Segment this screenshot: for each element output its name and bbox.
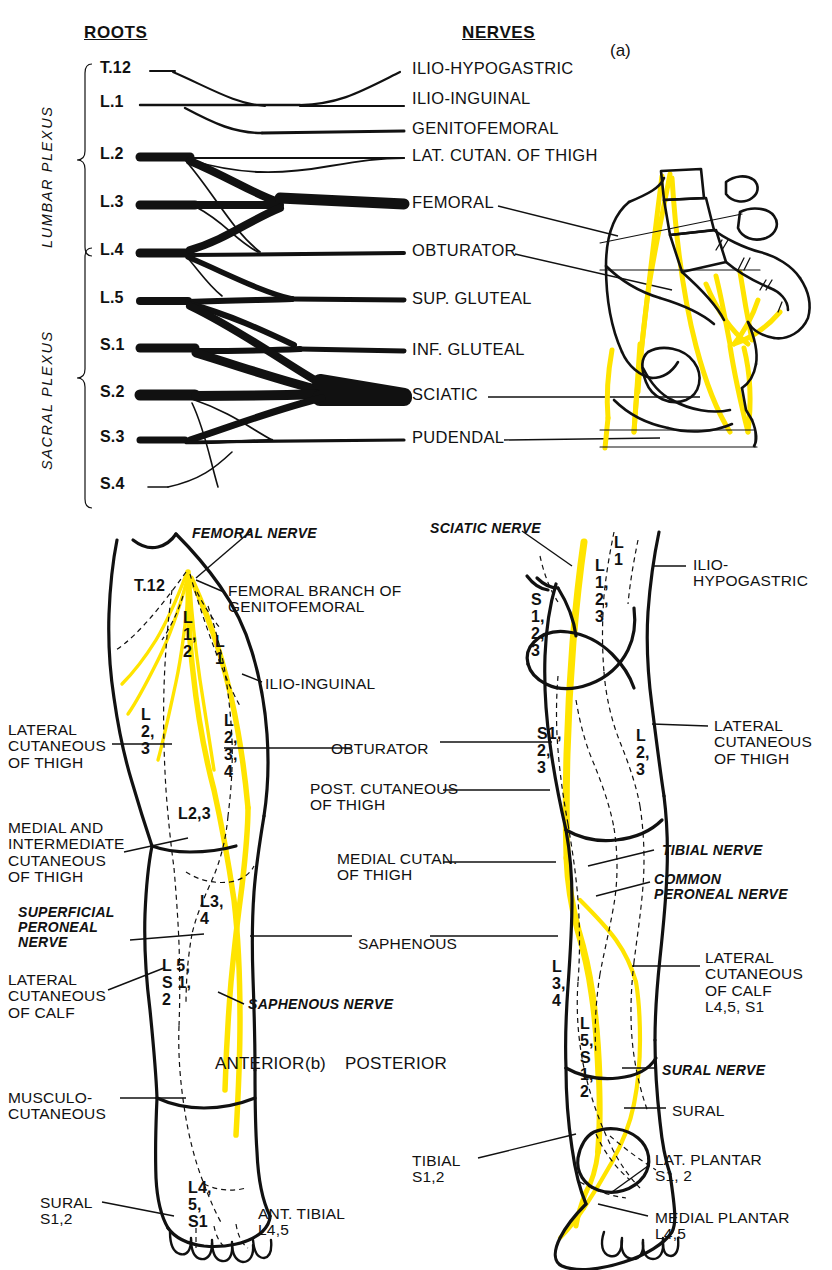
posterior-caption: POSTERIOR (345, 1055, 447, 1073)
root-label-s1: S.1 (100, 337, 125, 354)
anterior-segment-2: L 1 (215, 634, 225, 668)
nerve-label-inf-gluteal: INF. GLUTEAL (412, 341, 525, 358)
figure-root: .k{stroke:#111;fill:none;} .thin{stroke-… (0, 0, 832, 1270)
anterior-segment-5: L2,3 (178, 806, 211, 823)
anterior-leader-lines (102, 530, 352, 1216)
anterior-label-left-1: MEDIAL AND INTERMEDIATE CUTANEOUS OF THI… (8, 820, 125, 886)
posterior-segment-6: L 5, S 1, 2 (580, 1016, 594, 1101)
posterior-label-center-4: SAPHENOUS (358, 936, 457, 952)
root-label-s2: S.2 (100, 384, 125, 401)
anterior-segment-6: L3, 4 (200, 894, 224, 928)
posterior-label-right-8: MEDIAL PLANTAR L4,5 (655, 1210, 790, 1243)
pelvis-illustration (600, 169, 810, 448)
anterior-label-center-1: FEMORAL BRANCH OF GENITOFEMORAL (228, 583, 401, 616)
posterior-segment-0: S 1, 2, 3 (531, 592, 545, 660)
anterior-segment-4: L 2, 3, 4 (224, 713, 238, 781)
nerve-label-femoral: FEMORAL (412, 194, 494, 211)
plexus-braces (77, 64, 92, 508)
posterior-segment-2: L 1, 2, 3 (595, 558, 609, 626)
anterior-segment-8: L4, 5, S1 (188, 1180, 212, 1231)
panel-b-label: (b) (305, 1055, 326, 1073)
posterior-label-right-5: SURAL NERVE (662, 1063, 765, 1078)
posterior-label-center-5: TIBIAL S1,2 (412, 1153, 461, 1186)
posterior-segment-4: L 2, 3 (636, 728, 650, 779)
posterior-segment-1: L 1 (614, 535, 624, 569)
roots-column-header: ROOTS (84, 24, 147, 42)
anterior-label-left-4: MUSCULO- CUTANEOUS (8, 1090, 106, 1123)
nerve-label-sciatic: SCIATIC (412, 386, 478, 403)
root-label-l2: L.2 (100, 146, 124, 163)
nerve-label-genitofemoral: GENITOFEMORAL (412, 120, 559, 137)
nerve-label-sup-gluteal: SUP. GLUTEAL (412, 290, 532, 307)
posterior-label-right-3: COMMON PERONEAL NERVE (654, 872, 788, 902)
plexus-strands (168, 72, 404, 487)
anterior-label-left-3: LATERAL CUTANEOUS OF CALF (8, 972, 106, 1021)
anterior-label-center-3: ANT. TIBIAL L4,5 (258, 1206, 345, 1239)
root-label-s4: S.4 (100, 476, 125, 493)
posterior-label-right-6: SURAL (672, 1103, 725, 1119)
panel-a-label: (a) (610, 42, 631, 60)
anterior-segment-3: L 2, 3 (141, 707, 155, 758)
posterior-label-center-3: MEDIAL CUTAN. OF THIGH (337, 851, 458, 884)
sacral-plexus-label: SACRAL PLEXUS (40, 330, 55, 470)
plexus-leader-lines (488, 206, 700, 440)
anterior-label-left-5: SURAL S1,2 (40, 1195, 93, 1228)
anterior-label-left-0: LATERAL CUTANEOUS OF THIGH (8, 722, 106, 771)
nerve-label-lat-cutan-of-thigh: LAT. CUTAN. OF THIGH (412, 147, 598, 164)
anterior-caption: ANTERIOR (215, 1055, 304, 1073)
nerve-label-obturator: OBTURATOR (412, 242, 517, 259)
root-label-l4: L.4 (100, 242, 124, 259)
nerve-label-ilio-inguinal: ILIO-INGUINAL (412, 90, 531, 107)
posterior-segment-3: S1, 2, 3 (537, 726, 562, 777)
anterior-segment-7: L 5, S 1, 2 (162, 958, 191, 1009)
anterior-segment-0: T.12 (134, 578, 165, 595)
posterior-label-right-7: LAT. PLANTAR S1, 2 (655, 1152, 762, 1185)
posterior-label-center-1: OBTURATOR (331, 741, 429, 757)
anterior-label-center-2: ILIO-INGUINAL (265, 676, 375, 692)
anterior-label-center-4: SAPHENOUS NERVE (248, 997, 393, 1012)
root-label-l1: L.1 (100, 94, 124, 111)
nerve-label-pudendal: PUDENDAL (412, 429, 504, 446)
anterior-leg (102, 530, 352, 1262)
posterior-label-center-2: POST. CUTANEOUS OF THIGH (310, 781, 458, 814)
nerve-label-ilio-hypogastric: ILIO-HYPOGASTRIC (412, 60, 574, 77)
drawing-layer: .k{stroke:#111;fill:none;} .thin{stroke-… (0, 0, 832, 1270)
posterior-segment-5: L 3, 4 (552, 959, 566, 1010)
nerves-column-header: NERVES (462, 24, 535, 42)
root-label-l5: L.5 (100, 290, 124, 307)
posterior-label-right-1: LATERAL CUTANEOUS OF THIGH (714, 718, 812, 767)
lumbar-plexus-label: LUMBAR PLEXUS (40, 106, 55, 248)
anterior-segment-1: L 1, 2 (183, 610, 197, 661)
anterior-label-center-0: FEMORAL NERVE (192, 526, 317, 541)
posterior-label-center-0: SCIATIC NERVE (430, 521, 541, 536)
root-label-s3: S.3 (100, 429, 125, 446)
anterior-label-left-2: SUPERFICIAL PERONEAL NERVE (18, 905, 115, 949)
posterior-label-right-0: ILIO- HYPOGASTRIC (693, 557, 808, 590)
root-label-l3: L.3 (100, 194, 124, 211)
root-label-t12: T.12 (100, 60, 131, 77)
posterior-label-right-2: TIBIAL NERVE (662, 843, 763, 858)
posterior-label-right-4: LATERAL CUTANEOUS OF CALF L4,5, S1 (705, 950, 803, 1016)
